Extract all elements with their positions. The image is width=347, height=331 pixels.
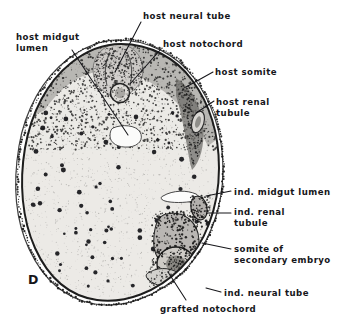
leader-grafted-notochord [168, 272, 186, 300]
label-ind-renal-tubule: ind. renal tubule [234, 207, 285, 230]
label-somite-of-secondary-embryo: somite of secondary embryo [234, 244, 331, 267]
host-notochord-body [111, 84, 130, 103]
label-host-neural-tube: host neural tube [143, 11, 231, 22]
host-midgut-lumen-cavity [110, 126, 141, 147]
leader-ind-neural-tube [206, 288, 221, 292]
panel-letter: D [28, 272, 38, 287]
label-host-midgut-lumen: host midgut lumen [16, 32, 80, 55]
label-ind-neural-tube: ind. neural tube [224, 288, 309, 299]
label-host-somite: host somite [215, 67, 277, 78]
label-grafted-notochord: grafted notochord [160, 304, 256, 315]
label-host-notochord: host notochord [163, 39, 243, 50]
label-host-renal-tubule: host renal tubule [216, 97, 270, 120]
leader-somite-secondary [202, 243, 231, 249]
label-ind-midgut-lumen: ind. midgut lumen [234, 187, 331, 198]
